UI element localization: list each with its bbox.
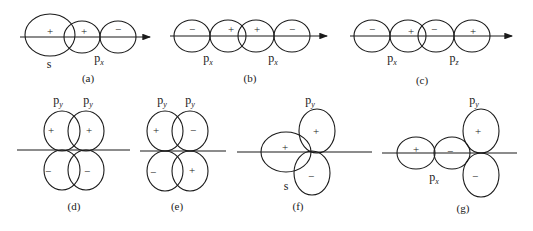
panel-caption: (f) [293, 200, 304, 213]
orbital-label: px [268, 51, 278, 67]
orbital-overlap-diagram: + + − s px (a) − + + − px px (b) − + − +… [0, 0, 533, 231]
sign: − [369, 23, 375, 35]
orbital-label: pz [449, 51, 459, 67]
panel-caption: (b) [244, 72, 257, 85]
sign: + [189, 164, 195, 176]
sign: − [431, 23, 437, 35]
panel-f: + + − py s (f) [237, 93, 372, 213]
sign: + [408, 25, 414, 37]
sign: + [153, 124, 159, 136]
sign: − [308, 170, 314, 182]
sign: + [470, 25, 476, 37]
orbital-label: py [305, 93, 315, 109]
sign: + [475, 125, 481, 137]
panel-caption: (d) [68, 200, 81, 213]
panel-d: + + − − py py (d) [17, 93, 130, 213]
orbital-label: px [429, 170, 439, 186]
panel-caption: (e) [171, 200, 184, 213]
sign: − [190, 124, 196, 136]
sign: − [472, 170, 478, 182]
sign: − [447, 145, 453, 157]
panel-caption: (c) [416, 74, 429, 87]
orbital-label: px [94, 51, 104, 67]
sign: + [47, 25, 53, 37]
orbital-label: py [83, 93, 93, 109]
sign: + [228, 23, 234, 35]
orbital-label: s [284, 179, 289, 193]
orbital-label: py [53, 93, 63, 109]
orbital-label: px [387, 51, 397, 67]
sign: + [413, 143, 419, 155]
sign: − [189, 23, 195, 35]
sign: + [81, 25, 87, 37]
panel-e: + − − + py py (e) [140, 93, 226, 213]
sign: − [115, 23, 121, 35]
sign: + [86, 124, 92, 136]
panel-caption: (a) [82, 72, 95, 85]
sign: − [150, 166, 156, 178]
panel-c: − + − + px pz (c) [350, 20, 512, 87]
sign: − [84, 165, 90, 177]
orbital-label: py [185, 93, 195, 109]
panel-a: + + − s px (a) [20, 14, 150, 85]
sign: + [48, 124, 54, 136]
orbital-label: py [469, 93, 479, 109]
sign: − [45, 165, 51, 177]
panel-b: − + + − px px (b) [170, 20, 327, 85]
orbital-label: px [203, 51, 213, 67]
panel-caption: (g) [457, 202, 470, 215]
sign: + [282, 141, 288, 153]
py-lobe-negative [463, 153, 499, 197]
orbital-label: s [47, 57, 52, 71]
orbital-label: py [157, 93, 167, 109]
sign: + [313, 125, 319, 137]
sign: − [289, 23, 295, 35]
panel-g: + − + − py px (g) [382, 93, 517, 215]
sign: + [254, 23, 260, 35]
